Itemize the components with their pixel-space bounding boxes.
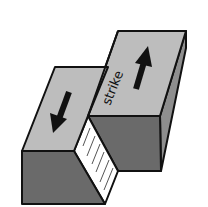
fault-diagram: strike — [0, 0, 208, 207]
fault-diagram-svg: strike — [0, 0, 208, 207]
